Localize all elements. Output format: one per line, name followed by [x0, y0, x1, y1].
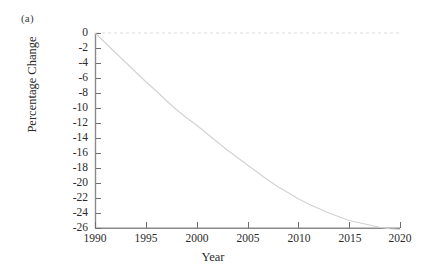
data-series-line	[95, 33, 400, 230]
x-axis-tick-marks	[96, 222, 401, 228]
plot-canvas	[0, 0, 426, 279]
axis-spines	[95, 33, 400, 229]
y-axis-tick-marks	[96, 34, 101, 229]
figure-panel-a: (a) Percentage Change 0 -2 -4 -6 -8 -10 …	[0, 0, 426, 279]
